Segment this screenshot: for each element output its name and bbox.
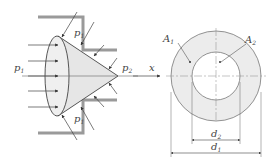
label-p2: p2 <box>122 62 132 74</box>
label-d2: d2 <box>211 128 221 140</box>
diagram-canvas: p1 p1 p1 p2 x A1 A2 <box>0 0 273 166</box>
label-d1: d1 <box>211 141 221 153</box>
label-x: x <box>149 62 155 73</box>
annulus-figure: A1 A2 d2 d1 <box>162 28 266 157</box>
x-axis-indicator: x <box>133 62 160 76</box>
label-A1: A1 <box>162 33 174 45</box>
label-p1-left: p1 <box>14 62 24 74</box>
label-A2: A2 <box>244 34 256 46</box>
cone-valve-figure: p1 p1 p1 p2 <box>14 12 138 140</box>
